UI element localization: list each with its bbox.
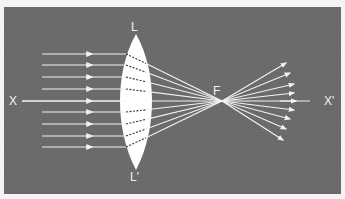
label-focus: F — [213, 84, 220, 98]
emergent-ray — [146, 101, 283, 140]
label-lens-bottom: L' — [130, 170, 139, 184]
emergent-ray — [146, 101, 290, 119]
emergent-ray — [146, 101, 286, 129]
label-lens-top: L — [131, 20, 138, 34]
label-axis-right: X' — [324, 94, 334, 108]
label-axis-left: X — [9, 94, 17, 108]
incident-rays — [22, 54, 126, 147]
lens-ray-diagram: L L' F X X' — [0, 0, 345, 199]
